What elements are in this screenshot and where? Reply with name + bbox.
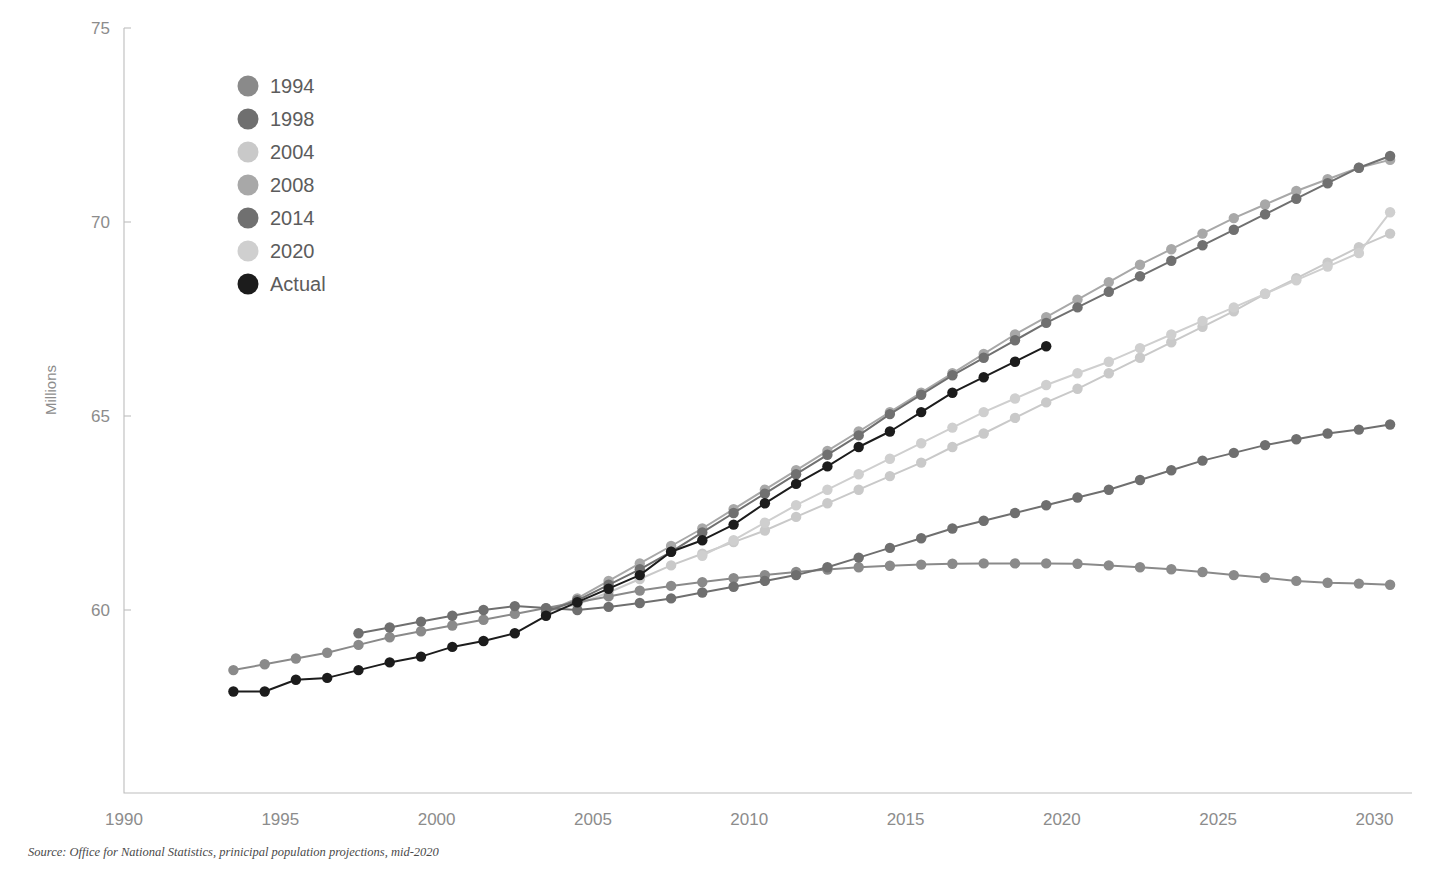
series-1998: [353, 419, 1395, 638]
x-tick-label: 2010: [730, 810, 768, 829]
data-point: [1385, 151, 1395, 161]
y-tick-label: 60: [91, 601, 110, 620]
data-point: [1229, 448, 1239, 458]
x-tick-label: 2020: [1043, 810, 1081, 829]
data-point: [760, 488, 770, 498]
data-point: [791, 512, 801, 522]
data-point: [510, 628, 520, 638]
data-point: [854, 469, 864, 479]
data-point: [1229, 570, 1239, 580]
data-point: [979, 428, 989, 438]
series-line: [233, 563, 1390, 670]
data-point: [385, 622, 395, 632]
data-point: [916, 559, 926, 569]
data-point: [1291, 434, 1301, 444]
legend-swatch-icon: [238, 142, 259, 163]
line-chart-plot: 75706560Millions199019952000200520102015…: [0, 0, 1445, 840]
data-point: [1072, 368, 1082, 378]
data-point: [478, 636, 488, 646]
data-point: [728, 535, 738, 545]
data-point: [791, 570, 801, 580]
data-point: [572, 597, 582, 607]
data-point: [947, 370, 957, 380]
y-tick-label: 75: [91, 19, 110, 38]
data-point: [416, 626, 426, 636]
data-point: [635, 570, 645, 580]
data-point: [1229, 225, 1239, 235]
data-point: [1354, 578, 1364, 588]
data-point: [1354, 424, 1364, 434]
legend-item-label: 2020: [270, 240, 315, 262]
data-point: [1354, 163, 1364, 173]
data-point: [1166, 244, 1176, 254]
data-point: [1104, 287, 1114, 297]
data-point: [322, 648, 332, 658]
data-point: [979, 407, 989, 417]
data-point: [385, 632, 395, 642]
legend-item-Actual[interactable]: Actual: [238, 273, 326, 295]
data-point: [947, 422, 957, 432]
data-point: [1197, 567, 1207, 577]
data-point: [1291, 576, 1301, 586]
data-point: [916, 457, 926, 467]
data-point: [1166, 329, 1176, 339]
legend-item-1994[interactable]: 1994: [238, 75, 315, 97]
data-point: [1135, 353, 1145, 363]
data-point: [1385, 207, 1395, 217]
data-point: [1322, 178, 1332, 188]
data-point: [979, 558, 989, 568]
legend-item-label: 2008: [270, 174, 315, 196]
data-point: [885, 426, 895, 436]
data-point: [760, 518, 770, 528]
data-point: [1197, 228, 1207, 238]
data-point: [1229, 302, 1239, 312]
series-1994: [228, 558, 1395, 675]
y-axis-ticks: 75706560: [91, 19, 131, 620]
data-point: [1197, 240, 1207, 250]
data-point: [1010, 393, 1020, 403]
data-point: [228, 665, 238, 675]
data-point: [1104, 277, 1114, 287]
data-point: [1260, 199, 1270, 209]
legend-item-2008[interactable]: 2008: [238, 174, 315, 196]
data-point: [1291, 194, 1301, 204]
data-point: [416, 651, 426, 661]
data-point: [541, 611, 551, 621]
data-point: [1322, 578, 1332, 588]
data-point: [1104, 485, 1114, 495]
data-point: [1135, 475, 1145, 485]
data-point: [353, 665, 363, 675]
data-point: [603, 602, 613, 612]
data-point: [1041, 341, 1051, 351]
x-tick-label: 2025: [1199, 810, 1237, 829]
series-Actual: [228, 341, 1051, 697]
data-point: [1135, 343, 1145, 353]
data-point: [1010, 357, 1020, 367]
legend-item-2020[interactable]: 2020: [238, 240, 315, 262]
legend-item-label: 1994: [270, 75, 315, 97]
data-point: [478, 615, 488, 625]
data-point: [260, 659, 270, 669]
legend-item-2004[interactable]: 2004: [238, 141, 315, 163]
data-point: [822, 450, 832, 460]
data-point: [1197, 455, 1207, 465]
legend: 199419982004200820142020Actual: [238, 75, 326, 295]
data-point: [1322, 261, 1332, 271]
legend-item-1998[interactable]: 1998: [238, 108, 315, 130]
source-note: Source: Office for National Statistics, …: [28, 845, 439, 860]
data-point: [510, 601, 520, 611]
data-point: [353, 628, 363, 638]
y-tick-label: 70: [91, 213, 110, 232]
data-point: [822, 562, 832, 572]
legend-item-2014[interactable]: 2014: [238, 207, 315, 229]
legend-swatch-icon: [238, 208, 259, 229]
series-2004: [541, 228, 1396, 617]
data-point: [1260, 573, 1270, 583]
data-point: [1197, 316, 1207, 326]
data-point: [947, 442, 957, 452]
data-point: [1072, 492, 1082, 502]
data-point: [885, 543, 895, 553]
legend-swatch-icon: [238, 241, 259, 262]
data-point: [979, 372, 989, 382]
data-point: [260, 686, 270, 696]
